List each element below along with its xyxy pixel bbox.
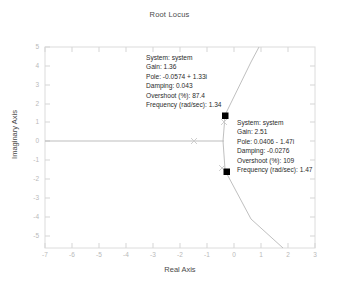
datatip-system: System: system [146,53,222,62]
xtick-label: 0 [224,251,244,258]
datatip-gain: Gain: 1.36 [146,62,222,71]
datatip-damping: Damping: -0.0276 [237,146,313,155]
datatip-pole: Pole: -0.0574 + 1.33i [146,72,222,81]
xtick-label: 2 [278,251,298,258]
xtick-label: -4 [116,251,136,258]
ytick-label: -5 [23,232,39,239]
xtick-label: 3 [305,251,325,258]
root-locus-figure: Root Locus [0,0,339,286]
ytick-label: 3 [23,81,39,88]
xtick-label: -3 [143,251,163,258]
xtick-label: -1 [197,251,217,258]
datatip-frequency: Frequency (rad/sec): 1.47 [237,165,313,174]
ytick-label: -1 [23,156,39,163]
ytick-label: 5 [23,43,39,50]
datatip-overshoot: Overshoot (%): 109 [237,156,313,165]
ytick-label: 0 [23,137,39,144]
datatip-damping: Damping: 0.043 [146,81,222,90]
xtick-label: 1 [251,251,271,258]
selected-pole-upper-marker[interactable] [222,113,229,120]
ytick-label: 1 [23,118,39,125]
datatip-overshoot: Overshoot (%): 87.4 [146,91,222,100]
datatip-upper-pole[interactable]: System: system Gain: 1.36 Pole: -0.0574 … [146,53,222,109]
x-axis-label: Real Axis [45,265,315,274]
datatip-pole: Pole: 0.0406 - 1.47i [237,137,313,146]
datatip-lower-pole[interactable]: System: system Gain: 2.51 Pole: 0.0406 -… [237,118,313,174]
xtick-label: -6 [62,251,82,258]
xtick-label: -7 [35,251,55,258]
ytick-label: -4 [23,213,39,220]
ytick-label: -3 [23,194,39,201]
datatip-frequency: Frequency (rad/sec): 1.34 [146,100,222,109]
y-axis-label: Imaginary Axis [10,85,19,185]
datatip-system: System: system [237,118,313,127]
xtick-label: -5 [89,251,109,258]
ytick-label: -2 [23,175,39,182]
selected-pole-lower-marker[interactable] [224,169,231,176]
ytick-label: 2 [23,100,39,107]
open-loop-pole-markers [191,119,227,171]
xtick-label: -2 [170,251,190,258]
ytick-label: 4 [23,62,39,69]
datatip-gain: Gain: 2.51 [237,127,313,136]
